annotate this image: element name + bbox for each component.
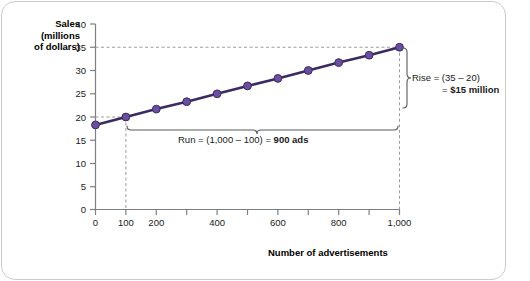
data-point: [396, 43, 404, 51]
y-axis-ticks: [90, 24, 96, 210]
x-tick-label-800: 800: [325, 217, 353, 228]
data-point: [304, 67, 312, 75]
rise-annotation-value: $15 million: [450, 84, 499, 95]
data-point: [213, 90, 221, 98]
rise-annotation-line2: = $15 million: [412, 84, 499, 96]
run-brace: [127, 126, 398, 134]
y-tick-label-0: 0: [72, 204, 86, 215]
data-markers-sales: [92, 43, 404, 128]
x-tick-label-1000: 1,000: [384, 217, 416, 228]
data-point: [92, 121, 100, 129]
x-axis-ticks: [96, 210, 400, 216]
data-point: [152, 105, 160, 113]
y-tick-label-5: 5: [72, 181, 86, 192]
rise-annotation-eq: =: [442, 84, 450, 95]
x-tick-label-400: 400: [203, 217, 231, 228]
y-tick-label-35: 35: [72, 42, 86, 53]
data-point: [365, 51, 373, 59]
data-point: [335, 59, 343, 67]
rise-brace: [403, 48, 411, 108]
y-tick-label-40: 40: [72, 19, 86, 30]
data-point: [274, 75, 282, 83]
run-annotation: Run = (1,000 – 100) = 900 ads: [178, 134, 308, 146]
data-point: [122, 113, 130, 121]
run-annotation-label: Run = (1,000 – 100) =: [178, 134, 274, 145]
run-annotation-value: 900 ads: [274, 134, 309, 145]
y-axis-title-line2: (millions: [41, 30, 80, 41]
rise-annotation-label: Rise = (35 – 20): [412, 72, 480, 83]
y-tick-label-20: 20: [72, 112, 86, 123]
x-tick-label-200: 200: [142, 217, 170, 228]
x-tick-label-0: 0: [86, 217, 106, 228]
y-tick-label-15: 15: [72, 135, 86, 146]
x-tick-label-100: 100: [112, 217, 140, 228]
data-point: [244, 82, 252, 90]
x-axis-title: Number of advertisements: [268, 247, 388, 258]
y-axis-title: Sales (millions of dollars): [8, 18, 80, 53]
y-tick-label-10: 10: [72, 158, 86, 169]
y-tick-label-30: 30: [72, 65, 86, 76]
data-point: [183, 98, 191, 106]
x-tick-label-600: 600: [264, 217, 292, 228]
y-tick-label-25: 25: [72, 88, 86, 99]
rise-annotation: Rise = (35 – 20)= $15 million: [412, 72, 499, 96]
